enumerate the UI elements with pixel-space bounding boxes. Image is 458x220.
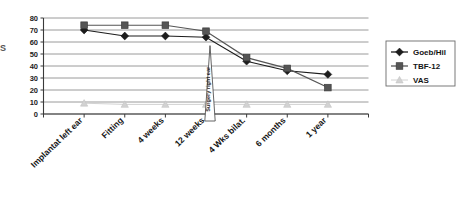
chart-container: S 01020304050607080 Implantat left earFi… <box>0 0 458 220</box>
data-point <box>121 22 128 29</box>
legend-label: TBF-12 <box>413 62 441 71</box>
y-tick-label: 40 <box>30 62 38 71</box>
data-point <box>284 65 291 72</box>
x-tick-labels-group: Implantat left earFitting4 weeks12 weeks… <box>29 115 329 170</box>
x-tick-label: Fitting <box>100 115 126 140</box>
data-point <box>243 54 250 61</box>
y-tick-label: 60 <box>30 38 38 47</box>
annotation-group: Surgery right ear <box>205 46 215 121</box>
data-point <box>162 22 169 29</box>
data-point <box>161 32 169 40</box>
legend-item-goeb-hil[interactable]: Goeb/Hil <box>391 48 446 57</box>
x-tick-label: 1 year <box>304 115 329 140</box>
y-tick-label: 70 <box>30 26 38 35</box>
data-point <box>81 22 88 29</box>
y-tick-label: 50 <box>30 50 38 59</box>
x-tick-label: Implantat left ear <box>29 115 85 170</box>
chart-plot: 01020304050607080 Implantat left earFitt… <box>0 0 458 220</box>
legend-swatch-marker <box>396 63 403 70</box>
data-point <box>324 71 332 79</box>
data-point <box>325 84 332 91</box>
y-tick-label: 80 <box>30 14 38 23</box>
y-tick-label: 0 <box>34 110 38 119</box>
y-tick-label: 10 <box>30 98 38 107</box>
data-point <box>121 32 129 40</box>
x-tick-label: 12 weeks <box>173 115 207 148</box>
y-tick-labels-group: 01020304050607080 <box>30 14 38 119</box>
y-tick-label: 30 <box>30 74 38 83</box>
legend-group: Goeb/HilTBF-12VAS <box>386 41 455 86</box>
x-tick-label: 6 months <box>254 115 288 149</box>
x-tick-label: 4 weeks <box>135 115 166 145</box>
annotation-label: Surgery right ear <box>205 66 211 112</box>
y-tick-label: 20 <box>30 86 38 95</box>
legend-label: VAS <box>413 76 430 85</box>
legend-label: Goeb/Hil <box>413 48 446 57</box>
data-point <box>203 28 210 35</box>
